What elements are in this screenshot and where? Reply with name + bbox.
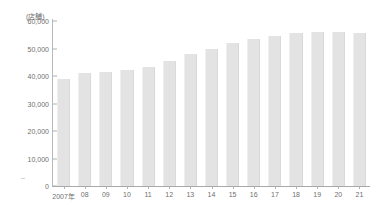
x-tick-label: 10: [123, 191, 131, 198]
x-tick-mark: [359, 186, 360, 189]
y-tick-label: 40,000: [28, 73, 49, 80]
x-tick-label: 11: [144, 191, 151, 198]
x-tick-label: 19: [313, 191, 321, 198]
x-tick-mark: [254, 186, 255, 189]
x-tick-mark: [296, 186, 297, 189]
x-tick-mark: [148, 186, 149, 189]
x-tick-mark: [338, 186, 339, 189]
bar: [332, 32, 345, 186]
y-tick-label: 10,000: [28, 155, 49, 162]
y-tick-label: 50,000: [28, 45, 49, 52]
x-tick-mark: [106, 186, 107, 189]
bar: [120, 70, 133, 186]
bar: [78, 73, 91, 186]
bar: [163, 61, 176, 186]
bar: [226, 43, 239, 186]
bar: [311, 32, 324, 186]
x-tick-label: 21: [356, 191, 364, 198]
x-tick-label: 13: [186, 191, 194, 198]
bar: [205, 49, 218, 187]
x-tick-label: 20: [334, 191, 342, 198]
bar: [353, 33, 366, 186]
bar: [289, 33, 302, 186]
x-tick-mark: [317, 186, 318, 189]
x-tick-label: 08: [81, 191, 89, 198]
x-tick-mark: [127, 186, 128, 189]
bar: [268, 36, 281, 186]
bar: [57, 79, 70, 186]
x-tick-label: 16: [250, 191, 258, 198]
x-tick-label: 18: [292, 191, 300, 198]
x-tick-mark: [212, 186, 213, 189]
bar: [184, 54, 197, 186]
x-tick-mark: [190, 186, 191, 189]
x-tick-label: 17: [271, 191, 279, 198]
bar-chart: (店舗) 010,00020,00030,00040,00050,00060,0…: [0, 0, 380, 212]
y-axis-ticks: 010,00020,00030,00040,00050,00060,000: [0, 0, 49, 212]
bar: [142, 67, 155, 186]
x-tick-label: 12: [165, 191, 173, 198]
x-tick-label: 14: [208, 191, 216, 198]
x-tick-mark: [275, 186, 276, 189]
x-tick-label: 2007年: [52, 191, 75, 201]
bar: [247, 39, 260, 186]
x-tick-mark: [169, 186, 170, 189]
x-tick-label: 09: [102, 191, 110, 198]
bar: [99, 72, 112, 186]
x-axis-labels: 2007年0809101112131415161718192021: [53, 188, 370, 204]
x-tick-mark: [233, 186, 234, 189]
y-tick-label: 20,000: [28, 128, 49, 135]
x-tick-mark: [64, 186, 65, 189]
bars-container: [53, 0, 370, 186]
y-tick-label: 30,000: [28, 100, 49, 107]
x-tick-mark: [85, 186, 86, 189]
y-tick-label: 60,000: [28, 18, 49, 25]
y-tick-label: 0: [45, 183, 49, 190]
x-tick-label: 15: [229, 191, 237, 198]
